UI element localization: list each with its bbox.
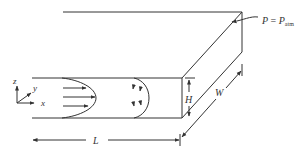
width-dimension: [180, 64, 242, 146]
y-axis-arrow: [17, 93, 31, 103]
outlet-velocity-profile: [133, 78, 149, 118]
duct-outline: [32, 12, 242, 118]
height-label: H: [184, 94, 193, 105]
pressure-label: P = Patm: [261, 15, 294, 27]
coordinate-axes: [17, 86, 34, 103]
y-axis-label: y: [32, 83, 37, 93]
width-label: W: [215, 87, 225, 98]
z-axis-label: z: [12, 76, 17, 86]
bottom-depth-edge: [182, 52, 242, 118]
x-axis-label: x: [40, 98, 45, 108]
duct-diagram: z y x H W L P = Patm: [0, 0, 299, 156]
length-label: L: [92, 135, 99, 146]
inlet-velocity-profile: [62, 78, 96, 118]
